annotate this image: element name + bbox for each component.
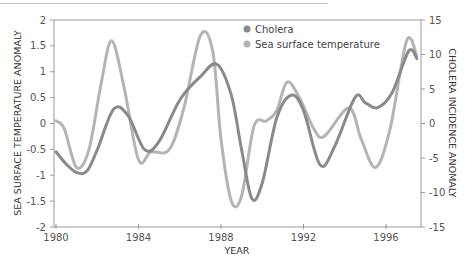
y-tick-label: 1.5 <box>30 40 46 51</box>
legend-item-cholera: Cholera <box>244 24 294 35</box>
y-tick-label: 0.5 <box>30 92 46 103</box>
x-tick-label: 1992 <box>291 232 316 243</box>
y2-tick-label: 15 <box>429 15 442 26</box>
y2-tick-label: -5 <box>429 153 439 164</box>
y-tick-label: -1 <box>36 170 46 181</box>
y-tick-label: -2 <box>36 222 46 233</box>
y-tick-label: -1.5 <box>26 196 46 207</box>
series-group <box>56 31 417 207</box>
left-axis: 21.510.50-0.5-1-1.5-2 <box>26 15 54 233</box>
legend-label-cholera: Cholera <box>255 24 294 35</box>
legend: Cholera Sea surface temperature <box>244 24 380 50</box>
y2-axis-title: CHOLERA INCIDENCE ANOMALY <box>447 48 458 198</box>
cholera-swatch-icon <box>244 26 251 33</box>
y-axis-title: SEA SURFACE TEMPERATURE ANOMALY <box>12 30 23 216</box>
sst-swatch-icon <box>244 41 251 48</box>
y2-tick-label: 10 <box>429 49 442 60</box>
y-tick-label: 2 <box>40 15 46 26</box>
y2-tick-label: 5 <box>429 84 435 95</box>
x-tick-label: 1980 <box>43 232 68 243</box>
y-tick-label: 0 <box>40 118 46 129</box>
x-axis: 19801984198819921996 <box>43 224 421 243</box>
y2-tick-label: -10 <box>429 187 445 198</box>
x-tick-label: 1984 <box>126 232 151 243</box>
x-axis-title: YEAR <box>224 245 250 256</box>
legend-label-sst: Sea surface temperature <box>255 39 380 50</box>
y2-tick-label: -15 <box>429 222 445 233</box>
y-tick-label: -0.5 <box>26 144 46 155</box>
y2-tick-label: 0 <box>429 118 435 129</box>
x-tick-label: 1996 <box>373 232 398 243</box>
right-axis: 151050-5-10-15 <box>421 15 445 233</box>
line-chart: 21.510.50-0.5-1-1.5-2 151050-5-10-15 198… <box>0 0 473 271</box>
cholera-line <box>56 50 417 201</box>
x-tick-label: 1988 <box>208 232 233 243</box>
y-tick-label: 1 <box>40 66 46 77</box>
legend-item-sst: Sea surface temperature <box>244 39 380 50</box>
